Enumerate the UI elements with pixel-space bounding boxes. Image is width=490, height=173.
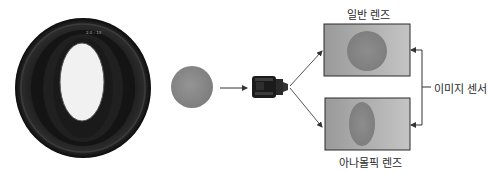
anamorphic-lens-label: 아나몰픽 렌즈 bbox=[339, 154, 403, 170]
image-sensor-bracket bbox=[411, 50, 431, 125]
diagram-canvas: 2.0 : 1X bbox=[0, 0, 490, 173]
arrow-to-normal-sensor bbox=[290, 51, 322, 86]
image-sensor-label: 이미지 센서 bbox=[434, 80, 488, 96]
normal-lens-sensor bbox=[324, 24, 410, 76]
anamorphic-lens-sensor bbox=[325, 98, 410, 150]
large-anamorphic-lens-icon: 2.0 : 1X bbox=[15, 18, 151, 158]
subject-sphere-icon bbox=[171, 66, 213, 108]
arrow-to-anamorphic-sensor bbox=[290, 88, 322, 127]
round-projection bbox=[347, 31, 387, 71]
svg-text:2.0 : 1X: 2.0 : 1X bbox=[86, 30, 102, 35]
camera-lens-icon bbox=[252, 76, 288, 98]
oval-projection bbox=[349, 102, 375, 146]
normal-lens-label: 일반 렌즈 bbox=[347, 6, 391, 22]
